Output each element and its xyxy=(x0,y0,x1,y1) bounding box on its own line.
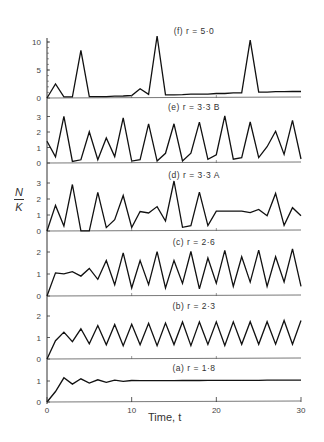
y-tick-label: 0 xyxy=(37,398,42,407)
panel-title: (d) r = 3·3 A xyxy=(168,170,220,180)
panel-a: 01(a) r = 1·8 xyxy=(37,363,301,407)
x-tick-label: 10 xyxy=(127,406,136,415)
y-axis-label: N K xyxy=(14,186,24,213)
y-tick-label: 1 xyxy=(37,334,42,343)
panel-c: 012(c) r = 2·6 xyxy=(37,237,301,301)
y-tick-label: 2 xyxy=(37,128,42,137)
x-tick-label: 30 xyxy=(297,406,306,415)
data-series-line xyxy=(47,181,301,231)
fraction-bar xyxy=(14,199,24,200)
panel-title: (b) r = 2·3 xyxy=(172,301,215,311)
y-tick-label: 3 xyxy=(37,179,42,188)
y-tick-label: 0 xyxy=(37,355,42,364)
data-series-line xyxy=(47,249,301,296)
y-tick-label: 0 xyxy=(37,94,42,103)
panel-title: (e) r = 3·3 B xyxy=(168,102,220,112)
y-tick-label: 1 xyxy=(37,270,42,279)
panel-baseline xyxy=(47,97,301,98)
multi-panel-time-series-chart: 0510(f) r = 5·00123(e) r = 3·3 B0123(d) … xyxy=(0,0,324,442)
y-tick-label: 10 xyxy=(32,38,41,47)
panel-b: 012(b) r = 2·3 xyxy=(37,301,301,364)
x-tick-label: 20 xyxy=(212,406,221,415)
y-tick-label: 1 xyxy=(37,211,42,220)
panel-title: (f) r = 5·0 xyxy=(174,26,215,36)
data-series-line xyxy=(47,36,301,98)
y-tick-label: 0 xyxy=(37,159,42,168)
x-axis-label: Time, t xyxy=(148,411,181,423)
panel-baseline xyxy=(47,162,301,163)
panel-baseline xyxy=(47,295,301,296)
y-tick-label: 2 xyxy=(37,248,42,257)
y-tick-label: 2 xyxy=(37,312,42,321)
data-series-line xyxy=(47,378,301,402)
panel-e: 0123(e) r = 3·3 B xyxy=(37,102,301,168)
y-tick-label: 0 xyxy=(37,292,42,301)
panel-d: 0123(d) r = 3·3 A xyxy=(37,170,301,236)
panel-f: 0510(f) r = 5·0 xyxy=(32,26,301,103)
y-tick-label: 3 xyxy=(37,113,42,122)
y-tick-label: 1 xyxy=(37,377,42,386)
data-series-line xyxy=(47,321,301,360)
y-tick-label: 2 xyxy=(37,195,42,204)
y-axis-label-denominator: K xyxy=(15,201,22,213)
y-tick-label: 0 xyxy=(37,227,42,236)
y-tick-label: 5 xyxy=(37,66,42,75)
y-axis-label-numerator: N xyxy=(15,186,23,198)
y-tick-label: 1 xyxy=(37,144,42,153)
x-tick-label: 0 xyxy=(45,406,50,415)
panel-title: (a) r = 1·8 xyxy=(172,363,215,373)
panel-baseline xyxy=(47,358,301,359)
panel-title: (c) r = 2·6 xyxy=(173,237,216,247)
data-series-line xyxy=(47,116,301,161)
panel-baseline xyxy=(47,401,301,402)
